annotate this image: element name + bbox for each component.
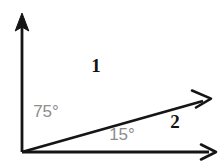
diagram-canvas: 1 2 75° 15°	[0, 0, 223, 165]
angle-label-upper: 75°	[33, 102, 59, 121]
angle-label-lower: 15°	[109, 125, 135, 144]
horizontal-ray	[22, 145, 216, 160]
region-label-two: 2	[170, 111, 180, 132]
vertical-ray	[15, 13, 29, 152]
diagonal-ray-arrowhead-icon	[192, 91, 211, 108]
region-label-one: 1	[91, 55, 101, 76]
angle-diagram-figure: 1 2 75° 15°	[0, 0, 223, 165]
